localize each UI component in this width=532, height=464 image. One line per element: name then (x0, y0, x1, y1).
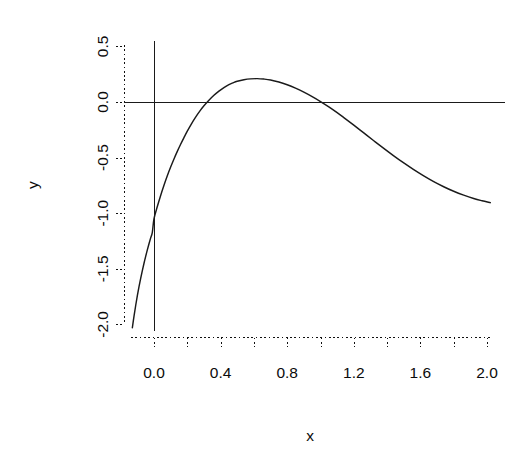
x-axis-tick-label: 0.4 (210, 364, 232, 381)
y-axis-tick-label: -0.5 (94, 144, 111, 171)
x-axis-tick-label: 0.8 (276, 364, 298, 381)
chart-background (0, 0, 532, 464)
x-axis-tick-label: 2.0 (476, 364, 498, 381)
chart-canvas: -2.0-1.5-1.0-0.50.00.5 0.00.40.81.21.62.… (0, 0, 532, 464)
x-axis-tick-label: 1.6 (410, 364, 432, 381)
y-axis-tick-label: -1.5 (94, 255, 111, 282)
x-axis-tick-label: 0.0 (143, 364, 165, 381)
x-axis-title: x (306, 427, 314, 444)
y-axis-title: y (24, 181, 41, 189)
y-axis-tick-label: -2.0 (94, 311, 111, 338)
y-axis-tick-label: -1.0 (94, 199, 111, 226)
x-axis-tick-label: 1.2 (343, 364, 365, 381)
y-axis-tick-label: 0.5 (94, 36, 111, 58)
chart-figure: -2.0-1.5-1.0-0.50.00.5 0.00.40.81.21.62.… (0, 0, 532, 464)
y-axis-tick-label: 0.0 (94, 91, 111, 113)
